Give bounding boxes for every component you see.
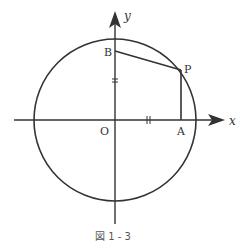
y-axis-label: y <box>123 9 131 23</box>
figure-caption: 図 1 - 3 <box>95 231 131 242</box>
x-axis-label: x <box>229 114 236 128</box>
point-A-label: A <box>176 125 186 138</box>
figure: y x B P A O 図 1 - 3 <box>0 0 245 251</box>
origin-label: O <box>100 125 109 138</box>
point-B-label: B <box>104 46 112 59</box>
diagram-svg: y x B P A O 図 1 - 3 <box>0 0 245 251</box>
point-P-label: P <box>184 63 192 76</box>
